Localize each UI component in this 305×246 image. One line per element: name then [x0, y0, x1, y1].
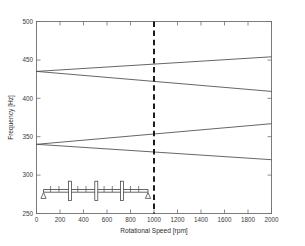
y-tick-label: 250	[22, 210, 33, 217]
y-axis-ticks-left	[37, 22, 41, 214]
x-tick-label: 800	[125, 216, 136, 223]
y-axis-tick-labels: 250 300 350 400 450 500	[22, 18, 33, 217]
x-tick-label: 1000	[147, 216, 162, 223]
x-axis-tick-labels: 0 200 400 600 800 1000 1200 1400 1600 18…	[35, 216, 279, 223]
y-tick-label: 400	[22, 95, 33, 102]
x-tick-label: 1200	[170, 216, 185, 223]
rotor-support-left	[41, 193, 46, 199]
x-tick-label: 2000	[264, 216, 279, 223]
y-tick-label: 350	[22, 133, 33, 140]
y-tick-label: 450	[22, 56, 33, 63]
x-tick-label: 1400	[194, 216, 209, 223]
y-tick-label: 500	[22, 18, 33, 25]
x-tick-label: 0	[35, 216, 39, 223]
rotor-schematic-inset	[41, 181, 151, 200]
y-tick-label: 300	[22, 171, 33, 178]
y-axis-label: Frequency [Hz]	[7, 95, 15, 140]
rotor-disk	[95, 181, 98, 200]
chart-svg: 0 200 400 600 800 1000 1200 1400 1600 18…	[0, 0, 305, 246]
x-tick-label: 600	[102, 216, 113, 223]
rotor-support-right	[145, 193, 150, 199]
x-tick-label: 200	[55, 216, 66, 223]
y-axis-ticks-right	[268, 22, 272, 214]
x-tick-label: 400	[78, 216, 89, 223]
rotor-disk	[121, 181, 124, 200]
rotor-disk	[69, 181, 72, 200]
x-tick-label: 1800	[241, 216, 256, 223]
campbell-diagram-figure: 0 200 400 600 800 1000 1200 1400 1600 18…	[0, 0, 305, 246]
x-tick-label: 1600	[217, 216, 232, 223]
x-axis-label: Rotational Speed [rpm]	[120, 227, 188, 235]
